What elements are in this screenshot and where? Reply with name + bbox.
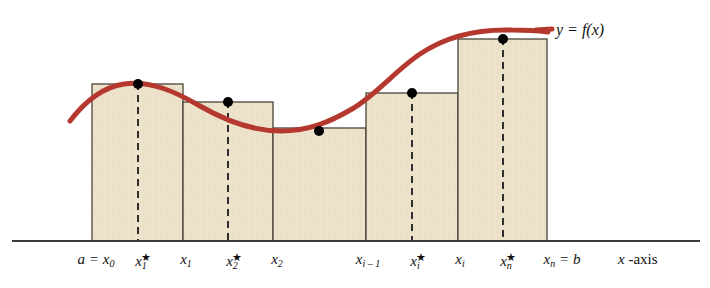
tick-label-a-x0: a = x0 <box>78 252 115 269</box>
diagram-canvas <box>0 0 710 288</box>
tick-label-xi-1: xi – 1 <box>356 252 380 269</box>
tick-label-xnstar: x★n <box>500 252 512 271</box>
star-superscript: ★ <box>141 251 151 263</box>
tick-label-x2star: x★2 <box>226 252 238 271</box>
tick-subscript: 2 <box>278 258 283 269</box>
tick-label-x1star: x★1 <box>135 252 147 271</box>
tick-label-xi: xi <box>455 252 464 269</box>
tick-label-xistar: x★i <box>410 252 419 271</box>
riemann-rectangle <box>273 128 366 241</box>
tick-base: x <box>180 251 187 267</box>
tick-base: x <box>544 251 551 267</box>
tick-subscript: i – 1 <box>362 258 380 269</box>
sample-point-dot <box>223 97 233 107</box>
axis-label-suffix: -axis <box>625 251 658 267</box>
riemann-rectangle <box>183 102 273 241</box>
sample-point-dot <box>133 79 143 89</box>
tick-subscript: 1 <box>187 258 192 269</box>
curve-label-leader-line <box>536 29 552 30</box>
tick-label-x1: x1 <box>180 252 192 269</box>
tick-base: x <box>271 251 278 267</box>
axis-label-variable: x <box>618 251 625 267</box>
tick-subscript: i <box>462 258 465 269</box>
riemann-sum-figure: y = f(x) x -axis a = x0x★1x1x★2x2xi – 1x… <box>0 0 710 288</box>
star-superscript: ★ <box>232 251 242 263</box>
tick-base: a = x <box>78 251 110 267</box>
x-axis-label: x -axis <box>618 252 658 267</box>
tick-label-xn-b: xn = b <box>544 252 581 269</box>
star-superscript: ★ <box>416 251 426 263</box>
star-superscript: ★ <box>506 251 516 263</box>
sample-point-dot <box>314 126 324 136</box>
tick-subscript: 0 <box>109 258 114 269</box>
tick-suffix: = b <box>555 251 580 267</box>
curve-label: y = f(x) <box>556 22 604 38</box>
tick-base: x <box>455 251 462 267</box>
tick-base: x <box>356 251 363 267</box>
sample-point-dot <box>498 34 508 44</box>
sample-point-dot <box>407 88 417 98</box>
rectangles-group <box>92 39 547 241</box>
tick-label-x2: x2 <box>271 252 283 269</box>
